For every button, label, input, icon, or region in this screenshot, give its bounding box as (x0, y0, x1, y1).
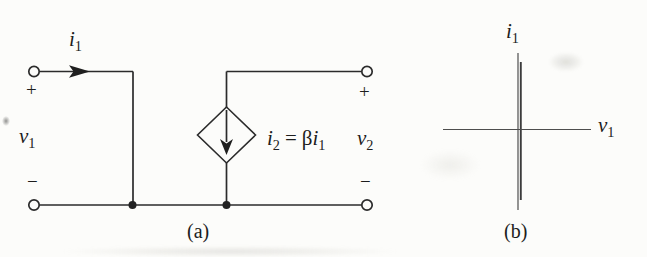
part-b-caption: (b) (504, 221, 527, 241)
graph-x-axis-sub: 1 (607, 124, 614, 140)
part-a-caption: (a) (187, 221, 209, 241)
node-dot-right (223, 201, 231, 209)
port2-voltage-base: v (357, 126, 366, 150)
port1-voltage-label: v1 (19, 126, 35, 147)
terminal-port1-top-icon (29, 66, 39, 76)
source-eq-lhs-sub: 2 (273, 137, 280, 153)
port1-voltage-base: v (19, 124, 28, 148)
input-current-label: i1 (69, 29, 82, 50)
port2-voltage-label: v2 (357, 128, 373, 149)
input-current-sub: 1 (75, 38, 82, 54)
port2-voltage-sub: 2 (366, 137, 373, 153)
source-eq-rhs-sub: 1 (318, 137, 325, 153)
terminal-port2-top-icon (362, 66, 372, 76)
graph-y-axis-label: i1 (506, 21, 519, 42)
source-eq-equals: = (285, 126, 297, 150)
terminal-port1-bottom-icon (29, 200, 39, 210)
node-dot-left (129, 201, 137, 209)
port1-voltage-sub: 1 (28, 135, 35, 151)
port1-minus-sign: − (27, 172, 38, 191)
port2-minus-sign: − (360, 172, 371, 191)
port1-plus-sign: + (26, 80, 37, 99)
graph-x-axis-label: v1 (598, 115, 614, 136)
graph-x-axis-base: v (598, 113, 607, 137)
source-equation-label: i2=βi1 (267, 128, 326, 149)
textbook-figure: i1 + v1 − i2=βi1 + v2 − (a) i1 v1 (b) (0, 0, 647, 257)
terminal-port2-bottom-icon (362, 200, 372, 210)
port2-plus-sign: + (359, 82, 370, 101)
graph-y-axis-sub: 1 (512, 30, 519, 46)
source-eq-beta: β (302, 126, 313, 150)
